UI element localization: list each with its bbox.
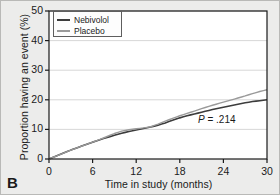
y-axis-title: Proportion having an event (%) (18, 7, 30, 167)
chart-legend: Nebivolol Placebo (53, 11, 122, 37)
y-tick-label: 50 (17, 4, 43, 16)
legend-label-placebo: Placebo (74, 26, 105, 36)
x-tick-label: 0 (36, 165, 62, 177)
p-value-annotation: P = .214 (198, 114, 236, 125)
x-tick-label: 6 (80, 165, 106, 177)
x-tick-label: 24 (210, 165, 236, 177)
x-tick-label: 12 (123, 165, 149, 177)
y-tick-label: 30 (17, 63, 43, 75)
y-tick-label: 40 (17, 34, 43, 46)
legend-swatch-nebivolol (57, 19, 70, 21)
figure-panel-b: Proportion having an event (%) Time in s… (0, 0, 280, 195)
x-tick-label: 18 (167, 165, 193, 177)
p-value-text: = .214 (205, 114, 236, 125)
legend-label-nebivolol: Nebivolol (74, 15, 109, 25)
y-tick-label: 10 (17, 122, 43, 134)
p-symbol: P (198, 114, 205, 125)
y-tick-label: 20 (17, 93, 43, 105)
legend-item-nebivolol: Nebivolol (57, 14, 121, 25)
legend-swatch-placebo (57, 30, 70, 32)
y-tick-label: 0 (17, 152, 43, 164)
x-axis-title: Time in study (months) (49, 178, 268, 190)
panel-label: B (7, 174, 18, 191)
legend-item-placebo: Placebo (57, 25, 121, 36)
x-tick-label: 30 (254, 165, 280, 177)
